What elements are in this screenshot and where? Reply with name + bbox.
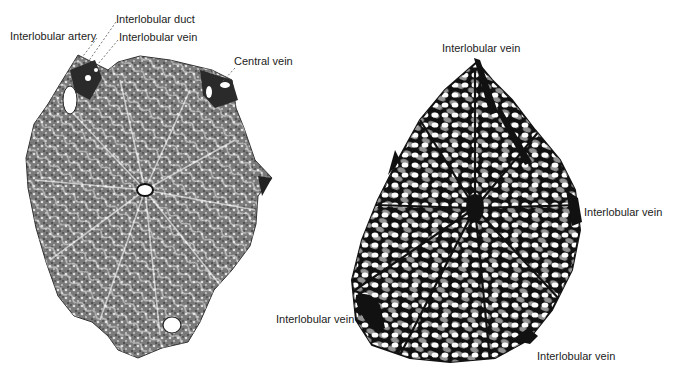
label-interlobular-vein-left: Interlobular vein xyxy=(119,31,197,43)
label-interlobular-vein-top: Interlobular vein xyxy=(442,42,520,54)
label-central-vein: Central vein xyxy=(234,55,293,67)
liver-lobule-figure: Interlobular artery Interlobular duct In… xyxy=(0,0,677,380)
label-interlobular-duct: Interlobular duct xyxy=(116,13,195,25)
label-interlobular-artery: Interlobular artery xyxy=(10,30,96,42)
label-interlobular-vein-right: Interlobular vein xyxy=(584,206,662,218)
label-interlobular-vein-bottom-left: Interlobular vein xyxy=(276,313,354,325)
label-interlobular-vein-bottom-right: Interlobular vein xyxy=(537,350,615,362)
cast-central-vein xyxy=(466,194,484,222)
